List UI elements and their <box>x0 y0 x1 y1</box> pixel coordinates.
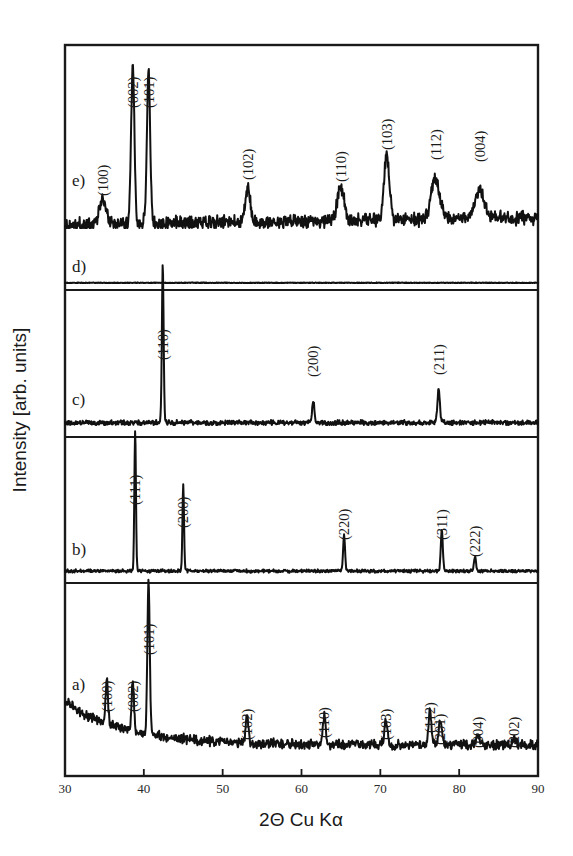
curve-label-b: b) <box>72 540 86 559</box>
curve-label-e: e) <box>72 171 85 190</box>
hkl-label-e-004: (004) <box>472 130 489 162</box>
curve-label-c: c) <box>72 390 85 409</box>
hkl-label-b-220: (220) <box>336 508 353 540</box>
x-tick-label-80: 80 <box>453 781 466 796</box>
x-tick-label-70: 70 <box>374 781 387 796</box>
trace-a <box>65 580 538 750</box>
hkl-label-c-200: (200) <box>305 345 322 377</box>
x-tick-label-40: 40 <box>137 781 150 796</box>
hkl-label-e-100: (100) <box>95 164 112 196</box>
hkl-label-a-202: (202) <box>506 716 523 748</box>
hkl-label-a-100: (100) <box>99 680 116 712</box>
x-tick-label-90: 90 <box>532 781 545 796</box>
hkl-label-a-101: (101) <box>141 623 158 655</box>
hkl-label-b-311: (311) <box>434 509 451 540</box>
hkl-label-c-211: (211) <box>431 344 448 375</box>
hkl-label-a-110: (110) <box>316 707 333 738</box>
hkl-label-e-002: (002) <box>125 76 142 108</box>
hkl-label-a-201: (201) <box>432 713 449 745</box>
x-axis-title: 2Θ Cu Kα <box>259 809 343 830</box>
hkl-peak-labels: (100)(002)(101)(102)(110)(103)(112)(004)… <box>95 76 524 748</box>
curve-label-a: a) <box>72 675 85 694</box>
hkl-label-b-111: (111) <box>127 474 144 505</box>
y-axis-title: Intensity [arb. units] <box>9 328 30 493</box>
hkl-label-a-103: (103) <box>378 708 395 740</box>
hkl-label-a-102: (102) <box>239 708 256 740</box>
curve-label-d: d) <box>72 257 86 276</box>
x-tick-label-30: 30 <box>59 781 72 796</box>
x-axis-tick-labels: 30405060708090 <box>59 781 545 796</box>
hkl-label-e-112: (112) <box>428 129 445 160</box>
trace-d <box>65 282 538 283</box>
xrd-plot-svg: 30405060708090 2Θ Cu Kα Intensity [arb. … <box>0 0 573 856</box>
hkl-label-b-222: (222) <box>467 525 484 557</box>
hkl-label-e-103: (103) <box>379 118 396 150</box>
hkl-label-e-110: (110) <box>333 151 350 182</box>
xrd-figure: 30405060708090 2Θ Cu Kα Intensity [arb. … <box>0 0 573 856</box>
x-tick-label-60: 60 <box>295 781 308 796</box>
x-tick-label-50: 50 <box>216 781 229 796</box>
hkl-label-b-200: (200) <box>175 496 192 528</box>
plot-frame <box>65 45 538 776</box>
hkl-label-a-002: (002) <box>125 680 142 712</box>
diffraction-traces <box>65 65 538 750</box>
hkl-label-a-004: (004) <box>470 716 487 748</box>
hkl-label-c-110: (110) <box>155 329 172 360</box>
hkl-label-e-102: (102) <box>240 148 257 180</box>
hkl-label-e-101: (101) <box>141 76 158 108</box>
